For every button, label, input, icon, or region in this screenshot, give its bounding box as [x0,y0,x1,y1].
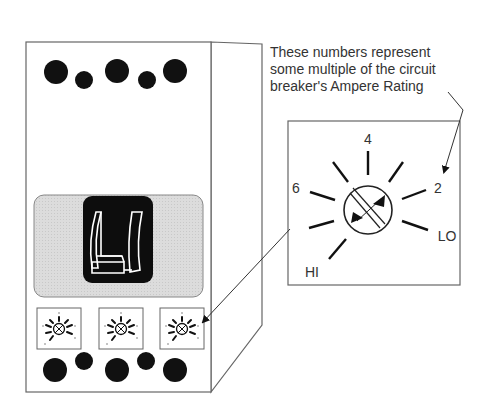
caption-line-3: breaker's Ampere Rating [270,78,480,95]
terminal-screw [75,71,93,89]
caption-line-2: some multiple of the circuit [270,61,480,78]
breaker-handle[interactable] [83,196,153,283]
dial-label-6: 6 [292,180,300,196]
trip-dial-1[interactable] [37,308,81,349]
terminal-dot [163,59,187,83]
terminal-screw [138,71,156,89]
caption-annotation: These numbers represent some multiple of… [270,44,480,95]
dial-label-lo: LO [438,228,457,244]
terminal-dot [43,358,67,382]
dial-label-hi: HI [305,264,319,280]
terminal-dot [105,59,129,83]
dial-label-2: 2 [434,180,442,196]
terminal-dot [105,358,129,382]
terminal-dot [163,358,187,382]
terminal-dot [44,60,68,84]
terminal-screw [75,352,93,370]
caption-line-1: These numbers represent [270,44,480,61]
breaker-side-panel [211,42,262,392]
trip-dial-3[interactable] [160,308,204,349]
dial-label-4: 4 [364,131,372,147]
trip-dial-2[interactable] [99,308,143,349]
enlarged-dial: 4 6 2 LO HI [288,121,460,285]
terminal-screw [137,352,155,370]
dial-knob[interactable] [344,186,392,234]
